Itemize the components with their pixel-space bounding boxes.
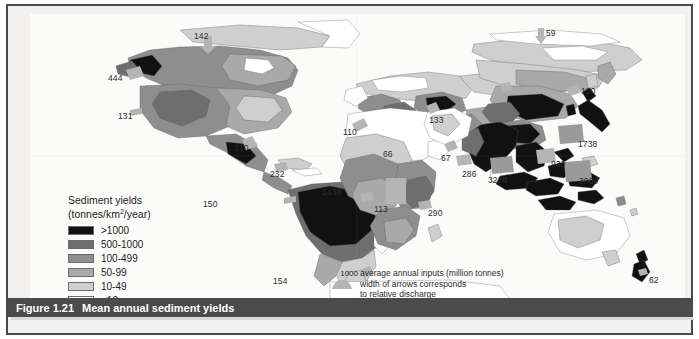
flux-label: 3000	[579, 176, 598, 186]
flux-label: 1738	[578, 139, 597, 149]
legend-item-label: >1000	[101, 225, 129, 236]
arrow-legend-line-2: width of arrows corresponds	[360, 279, 504, 290]
legend-item-label: 50-99	[101, 267, 127, 278]
flux-label: 1438	[322, 187, 341, 197]
flux-label: 930	[551, 159, 565, 169]
caption-drop-shadow	[11, 317, 694, 320]
flux-label: 444	[108, 73, 122, 83]
discharge-arrow-icon	[330, 279, 354, 290]
flux-label: 133	[429, 115, 443, 125]
legend-item-label: 100-499	[101, 253, 138, 264]
flux-label: 154	[273, 276, 287, 286]
figure-caption-bar: Figure 1.21 Mean annual sediment yields	[8, 298, 691, 317]
flux-label: 290	[428, 208, 442, 218]
flux-label: 3228	[488, 175, 507, 185]
legend-swatch	[68, 254, 94, 263]
flux-label: 59	[546, 28, 556, 38]
legend-units-prefix: (tonnes/km	[68, 208, 120, 220]
figure-title: Mean annual sediment yields	[82, 302, 234, 314]
legend-item: 10-49	[68, 280, 218, 293]
legend-swatch	[68, 268, 94, 277]
arrow-legend-text: average annual inputs (million tonnes) w…	[360, 268, 504, 300]
flux-label: 110	[343, 127, 357, 137]
legend-item: 100-499	[68, 252, 218, 265]
flux-label: 66	[383, 149, 393, 159]
sediment-yield-legend: Sediment yields (tonnes/km2/year) >1000 …	[68, 194, 218, 308]
flux-label: 286	[462, 169, 476, 179]
flux-label: 62	[649, 275, 659, 285]
legend-swatch	[68, 282, 94, 291]
legend-swatch	[68, 240, 94, 249]
legend-title: Sediment yields	[68, 194, 218, 207]
legend-units: (tonnes/km2/year)	[68, 208, 218, 221]
legend-units-suffix: /year)	[124, 208, 151, 220]
flux-label: 232	[270, 169, 284, 179]
figure-container: .c-black { fill:#111111; stroke:#5a5a5a;…	[0, 0, 699, 339]
legend-item-label: 10-49	[101, 281, 127, 292]
flux-label: 210	[234, 143, 248, 153]
discharge-arrow-legend: 1000 average annual inputs (million tonn…	[314, 268, 614, 300]
flux-label: 131	[118, 111, 132, 121]
flux-label: 113	[374, 204, 388, 214]
flux-label: 142	[194, 31, 208, 41]
legend-swatch	[68, 226, 94, 235]
flux-label: 67	[441, 153, 451, 163]
arrow-legend-key: 1000	[314, 268, 360, 290]
legend-item: 500-1000	[68, 238, 218, 251]
legend-item-label: 500-1000	[101, 239, 143, 250]
legend-item: 50-99	[68, 266, 218, 279]
arrow-legend-value: 1000	[314, 269, 360, 278]
figure-frame: .c-black { fill:#111111; stroke:#5a5a5a;…	[6, 4, 693, 335]
arrow-legend-line-1: average annual inputs (million tonnes)	[360, 268, 504, 279]
figure-number: Figure 1.21	[16, 302, 74, 314]
flux-label: 100	[581, 86, 595, 96]
legend-item: >1000	[68, 224, 218, 237]
